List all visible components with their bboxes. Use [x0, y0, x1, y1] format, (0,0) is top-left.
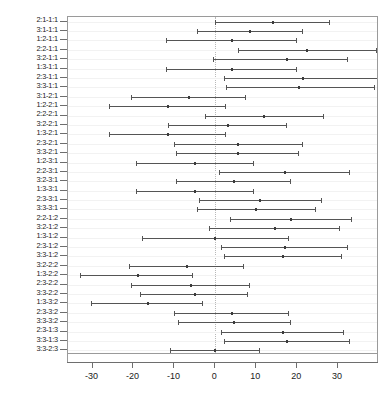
interval-point-estimate — [286, 58, 288, 61]
y-axis-tick — [60, 274, 67, 275]
confidence-interval-2:2-1:1 — [238, 50, 377, 51]
interval-point-estimate — [233, 321, 235, 324]
y-axis-tick — [60, 293, 67, 294]
confidence-interval-1:2-1:1 — [166, 40, 297, 41]
interval-upper-cap — [341, 254, 342, 259]
interval-point-estimate — [147, 302, 149, 305]
interval-lower-cap — [205, 114, 206, 119]
y-axis-label-1:3-2:1: 1:3-2:1 — [36, 129, 58, 137]
confidence-interval-1:3-3:1 — [136, 191, 255, 192]
confidence-interval-1:3-2:2 — [80, 275, 193, 276]
y-axis-label-3:3-2:3: 3:3-2:3 — [36, 345, 58, 353]
interval-upper-cap — [351, 217, 352, 222]
confidence-interval-3:3-3:2 — [178, 322, 291, 323]
interval-point-estimate — [194, 162, 196, 165]
plot-area — [67, 16, 378, 354]
confidence-interval-1:2-3:1 — [136, 163, 255, 164]
interval-upper-cap — [339, 226, 340, 231]
confidence-interval-3:3-1:1 — [226, 87, 375, 88]
interval-point-estimate — [188, 96, 190, 99]
interval-upper-cap — [259, 348, 260, 353]
y-axis-label-3:1-2:1: 3:1-2:1 — [36, 92, 58, 100]
interval-point-estimate — [263, 115, 265, 118]
interval-upper-cap — [298, 151, 299, 156]
interval-point-estimate — [214, 237, 216, 240]
y-axis-tick — [60, 105, 67, 106]
y-axis-tick — [60, 312, 67, 313]
confidence-interval-2:3-1:2 — [221, 247, 348, 248]
interval-lower-cap — [199, 198, 200, 203]
y-axis-tick — [60, 143, 67, 144]
y-axis-tick — [60, 302, 67, 303]
interval-upper-cap — [347, 57, 348, 62]
confidence-interval-2:3-3:2 — [174, 313, 289, 314]
x-axis-label--30: -30 — [85, 371, 98, 381]
y-axis-tick — [60, 190, 67, 191]
confidence-interval-2:3-1:1 — [224, 78, 378, 79]
interval-upper-cap — [225, 132, 226, 137]
x-axis-label--20: -20 — [126, 371, 139, 381]
y-axis-label-3:3-2:1: 3:3-2:1 — [36, 148, 58, 156]
confidence-interval-3:1-1:1 — [197, 31, 303, 32]
interval-point-estimate — [167, 105, 169, 108]
confidence-interval-3:3-1:2 — [224, 256, 343, 257]
interval-upper-cap — [347, 245, 348, 250]
y-axis-tick — [60, 115, 67, 116]
interval-upper-cap — [243, 264, 244, 269]
interval-upper-cap — [321, 198, 322, 203]
y-axis-label-3:3-2:2: 3:3-2:2 — [36, 289, 58, 297]
interval-upper-cap — [253, 189, 254, 194]
interval-lower-cap — [197, 207, 198, 212]
confidence-interval-3:2-1:2 — [209, 228, 340, 229]
interval-point-estimate — [284, 171, 286, 174]
interval-lower-cap — [142, 236, 143, 241]
confidence-interval-2:1-1:1 — [215, 22, 330, 23]
y-axis-tick — [60, 86, 67, 87]
confidence-interval-2:2-3:1 — [219, 172, 350, 173]
x-axis-label-0: 0 — [212, 371, 217, 381]
y-axis-label-1:2-2:1: 1:2-2:1 — [36, 101, 58, 109]
confidence-interval-chart: 2:1-1:13:1-1:11:2-1:12:2-1:13:2-1:11:3-1… — [0, 0, 391, 407]
y-axis-label-2:3-1:3: 2:3-1:3 — [36, 326, 58, 334]
y-axis-label-2:3-3:1: 2:3-3:1 — [36, 195, 58, 203]
interval-upper-cap — [302, 142, 303, 147]
y-axis-label-3:2-1:2: 3:2-1:2 — [36, 223, 58, 231]
y-axis-label-1:3-3:2: 1:3-3:2 — [36, 298, 58, 306]
interval-lower-cap — [221, 330, 222, 335]
confidence-interval-2:2-1:2 — [230, 219, 353, 220]
interval-upper-cap — [349, 170, 350, 175]
interval-lower-cap — [176, 151, 177, 156]
y-axis-tick — [60, 321, 67, 322]
x-axis-tick — [255, 362, 256, 368]
interval-lower-cap — [136, 161, 137, 166]
interval-point-estimate — [259, 199, 261, 202]
y-axis-tick — [60, 218, 67, 219]
interval-point-estimate — [302, 77, 304, 80]
interval-upper-cap — [376, 48, 377, 53]
interval-lower-cap — [136, 189, 137, 194]
interval-upper-cap — [290, 179, 291, 184]
interval-lower-cap — [221, 245, 222, 250]
confidence-interval-3:1-2:1 — [131, 97, 246, 98]
interval-lower-cap — [166, 38, 167, 43]
y-axis-label-3:3-3:2: 3:3-3:2 — [36, 317, 58, 325]
y-axis-tick — [60, 30, 67, 31]
interval-point-estimate — [306, 49, 308, 52]
y-axis-tick — [60, 255, 67, 256]
y-axis-label-2:3-2:2: 2:3-2:2 — [36, 279, 58, 287]
x-axis-tick — [173, 362, 174, 368]
interval-point-estimate — [249, 30, 251, 33]
y-axis-label-2:2-3:1: 2:2-3:1 — [36, 167, 58, 175]
interval-point-estimate — [282, 331, 284, 334]
interval-point-estimate — [137, 274, 139, 277]
interval-upper-cap — [286, 123, 287, 128]
interval-lower-cap — [131, 283, 132, 288]
interval-point-estimate — [231, 312, 233, 315]
interval-lower-cap — [168, 123, 169, 128]
y-axis-tick — [60, 77, 67, 78]
x-axis-tick — [92, 362, 93, 368]
interval-point-estimate — [237, 152, 239, 155]
interval-point-estimate — [231, 39, 233, 42]
y-axis-tick — [60, 208, 67, 209]
interval-upper-cap — [329, 20, 330, 25]
